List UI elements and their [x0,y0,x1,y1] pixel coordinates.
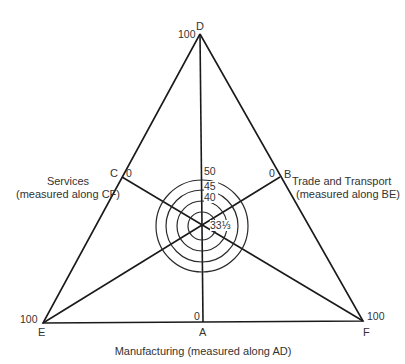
circle-label-40: 40 [204,191,216,203]
circle-label-33: 33⅓ [210,219,231,231]
vertex-f-value: 100 [367,310,385,322]
manufacturing-label: Manufacturing (measured along AD) [115,345,292,357]
vertex-b-label: B [284,168,291,180]
vertex-c-value: 0 [126,167,132,179]
vertex-d-value: 100 [178,28,196,40]
services-sublabel: (measured along CF) [16,188,120,200]
vertex-e-label: E [38,326,45,338]
vertex-b-value: 0 [269,167,275,179]
trade-label: Trade and Transport [292,175,391,187]
median-ad [200,34,203,322]
circle-label-50: 50 [204,165,216,177]
vertex-d-label: D [196,20,204,32]
trade-sublabel: (measured along BE) [296,188,400,200]
services-label: Services [47,175,90,187]
vertex-f-label: F [363,326,370,338]
vertex-a-value: 0 [194,310,200,322]
triangular-diagram: D 100 100 E 100 F 0 A C 0 0 B Services (… [0,0,405,364]
vertex-c-label: C [110,167,118,179]
vertex-a-label: A [199,326,207,338]
vertex-e-value: 100 [20,313,38,325]
